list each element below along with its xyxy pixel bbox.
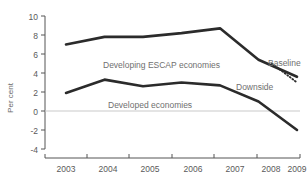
chart-container: Per cent 10 8 6 4 2 0 -2 -4 2003 [0, 0, 308, 190]
y-tick-label-4: 4 [33, 69, 38, 79]
annotation-developed: Developed economies [108, 100, 192, 110]
y-tick-label-6: 6 [33, 50, 38, 60]
x-tick-label-2005: 2005 [141, 164, 160, 174]
x-tick-label-2003: 2003 [57, 164, 76, 174]
y-axis-title: Per cent [6, 82, 15, 113]
x-tick-label-2007: 2007 [226, 164, 245, 174]
x-tick-label-2009: 2009 [288, 164, 307, 174]
x-tick-label-2008: 2008 [262, 164, 281, 174]
y-tick-label-10: 10 [29, 12, 39, 22]
y-tick-label-2: 2 [33, 88, 38, 98]
annotation-downside: Downside [236, 82, 274, 92]
y-tick-label-0: 0 [33, 107, 38, 117]
x-tick-label-2006: 2006 [184, 164, 203, 174]
line-chart: Per cent 10 8 6 4 2 0 -2 -4 2003 [0, 0, 308, 190]
y-tick-label-neg2: -2 [30, 126, 38, 136]
y-tick-label-8: 8 [33, 31, 38, 41]
y-tick-label-neg4: -4 [30, 145, 38, 155]
annotation-developing-escap: Developing ESCAP economies [103, 60, 220, 70]
annotation-baseline: Baseline [268, 58, 301, 68]
x-tick-label-2004: 2004 [99, 164, 118, 174]
